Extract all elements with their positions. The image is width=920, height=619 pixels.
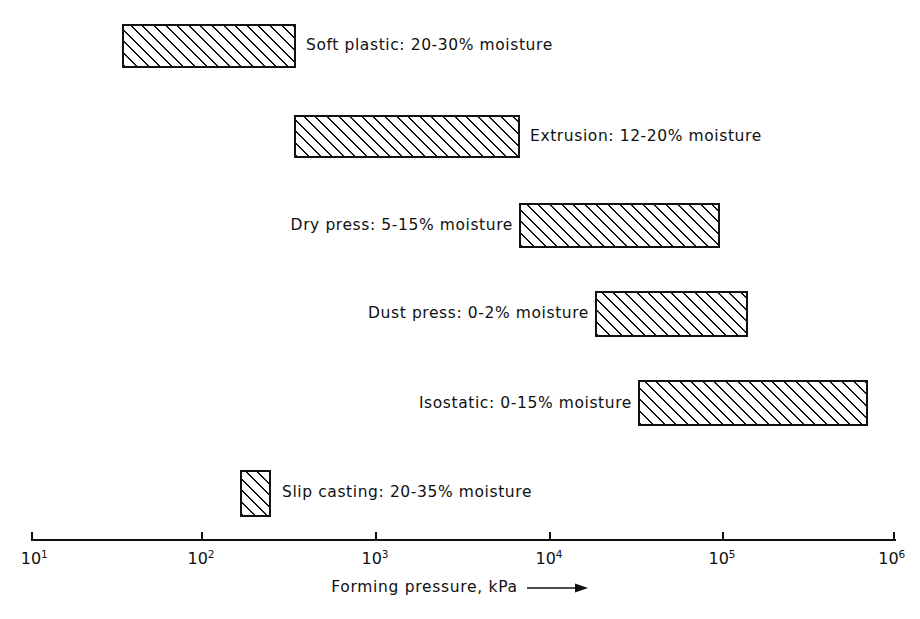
x-tick-100000 bbox=[722, 532, 724, 541]
bar-label-dust-press: Dust press: 0-2% moisture bbox=[368, 306, 589, 322]
x-tick-label-1000: 103 bbox=[361, 551, 388, 567]
x-tick-1000 bbox=[375, 532, 377, 541]
bar-dry-press bbox=[519, 203, 720, 248]
x-axis-title: Forming pressure, kPa bbox=[331, 580, 518, 596]
x-axis-line bbox=[31, 539, 896, 541]
bar-label-soft-plastic: Soft plastic: 20-30% moisture bbox=[306, 38, 553, 54]
x-tick-label-10: 101 bbox=[21, 551, 48, 567]
tick-exponent: 6 bbox=[899, 548, 906, 560]
bar-isostatic bbox=[638, 380, 868, 426]
tick-mantissa: 10 bbox=[535, 549, 555, 568]
tick-exponent: 3 bbox=[382, 548, 389, 560]
x-axis-title-group: Forming pressure, kPa bbox=[0, 580, 920, 596]
x-tick-label-10000: 104 bbox=[535, 551, 562, 567]
bar-label-slip-casting: Slip casting: 20-35% moisture bbox=[282, 485, 532, 501]
x-tick-label-1000000: 106 bbox=[878, 551, 905, 567]
bar-slip-casting bbox=[240, 470, 271, 517]
x-tick-10 bbox=[31, 532, 33, 541]
forming-pressure-chart: Soft plastic: 20-30% moistureExtrusion: … bbox=[0, 0, 920, 619]
bar-label-isostatic: Isostatic: 0-15% moisture bbox=[419, 396, 632, 412]
tick-exponent: 5 bbox=[729, 548, 736, 560]
bar-dust-press bbox=[595, 291, 748, 337]
tick-mantissa: 10 bbox=[361, 549, 381, 568]
x-tick-label-100000: 105 bbox=[708, 551, 735, 567]
tick-exponent: 4 bbox=[556, 548, 563, 560]
tick-exponent: 1 bbox=[41, 548, 48, 560]
x-tick-10000 bbox=[549, 532, 551, 541]
tick-mantissa: 10 bbox=[708, 549, 728, 568]
bar-label-dry-press: Dry press: 5-15% moisture bbox=[291, 218, 513, 234]
right-arrow-icon bbox=[527, 581, 589, 595]
bar-extrusion bbox=[294, 115, 520, 158]
tick-mantissa: 10 bbox=[187, 549, 207, 568]
tick-mantissa: 10 bbox=[21, 549, 41, 568]
tick-mantissa: 10 bbox=[878, 549, 898, 568]
x-tick-100 bbox=[201, 532, 203, 541]
bar-label-extrusion: Extrusion: 12-20% moisture bbox=[530, 129, 762, 145]
tick-exponent: 2 bbox=[208, 548, 215, 560]
x-tick-label-100: 102 bbox=[187, 551, 214, 567]
bar-soft-plastic bbox=[122, 24, 296, 68]
x-tick-1000000 bbox=[893, 532, 895, 541]
